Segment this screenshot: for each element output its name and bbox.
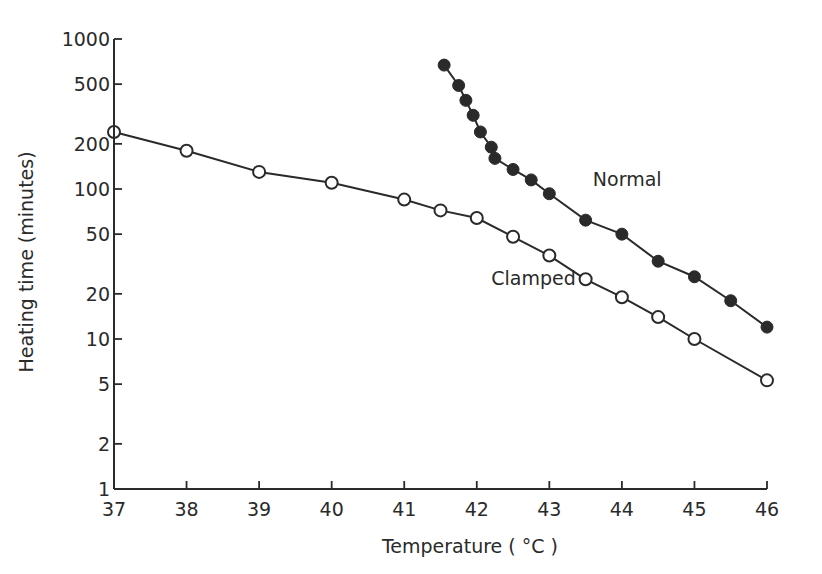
filled-circle-marker [485,141,497,153]
series-label-normal: Normal [593,168,662,190]
y-tick-label: 2 [98,433,110,455]
x-axis-title: Temperature ( °C ) [381,535,558,557]
x-tick-label: 43 [537,498,561,520]
filled-circle-marker [489,152,501,164]
x-tick-label: 38 [174,498,198,520]
filled-circle-marker [453,79,465,91]
series-clamped: Clamped [108,126,773,386]
filled-circle-marker [467,109,479,121]
open-circle-marker [253,166,265,178]
filled-circle-marker [507,163,519,175]
series-label-clamped: Clamped [491,267,576,289]
open-circle-marker [398,194,410,206]
y-tick-label: 200 [74,133,110,155]
y-tick-label: 500 [74,73,110,95]
y-axis-title: Heating time (minutes) [15,151,37,372]
open-circle-marker [435,204,447,216]
open-circle-marker [507,231,519,243]
open-circle-marker [326,177,338,189]
y-tick-label: 1 [98,478,110,500]
open-circle-marker [616,291,628,303]
x-tick-label: 44 [610,498,634,520]
y-tick-label: 50 [86,223,110,245]
y-tick-label: 20 [86,283,110,305]
filled-circle-marker [438,59,450,71]
filled-circle-marker [616,228,628,240]
axes [114,39,767,489]
ticks: 3738394041424344454612510205010020050010… [62,28,779,520]
heating-time-chart: NormalClamped 37383940414243444546125102… [0,0,822,574]
x-tick-label: 40 [320,498,344,520]
filled-circle-marker [543,188,555,200]
filled-circle-marker [725,295,737,307]
filled-circle-marker [460,94,472,106]
filled-circle-marker [652,255,664,267]
filled-circle-marker [688,271,700,283]
open-circle-marker [471,212,483,224]
plot-area: NormalClamped [108,59,773,386]
x-tick-label: 37 [102,498,126,520]
x-tick-label: 45 [682,498,706,520]
y-tick-label: 1000 [62,28,110,50]
open-circle-marker [761,374,773,386]
series-normal: Normal [438,59,773,333]
open-circle-marker [652,311,664,323]
open-circle-marker [580,273,592,285]
y-tick-label: 10 [86,328,110,350]
filled-circle-marker [761,321,773,333]
filled-circle-marker [525,174,537,186]
y-tick-label: 100 [74,178,110,200]
open-circle-marker [181,145,193,157]
open-circle-marker [688,333,700,345]
series-line [114,132,767,380]
x-tick-label: 42 [465,498,489,520]
filled-circle-marker [580,214,592,226]
y-tick-label: 5 [98,373,110,395]
filled-circle-marker [474,126,486,138]
x-tick-label: 46 [755,498,779,520]
x-tick-label: 39 [247,498,271,520]
x-tick-label: 41 [392,498,416,520]
open-circle-marker [543,250,555,262]
